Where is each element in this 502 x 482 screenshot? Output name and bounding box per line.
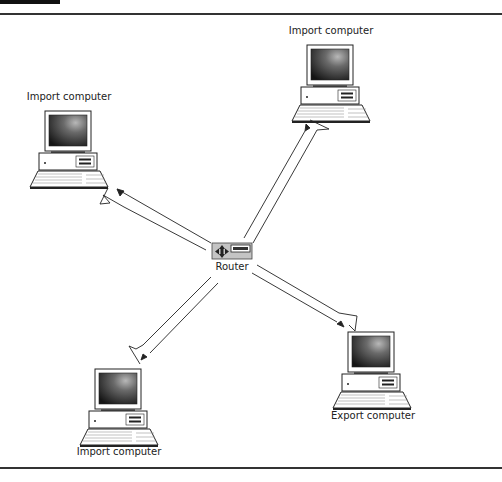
router-icon xyxy=(212,243,252,259)
link-router-to-import-top-right xyxy=(244,120,329,243)
label-router: Router xyxy=(215,261,248,272)
label-import-top-right: Import computer xyxy=(289,25,374,36)
network-diagram xyxy=(0,0,502,482)
computer-import-bottom-left xyxy=(80,369,158,446)
link-router-to-export-bottom-right xyxy=(252,265,357,331)
link-router-to-import-left xyxy=(100,188,211,250)
computer-import-left xyxy=(30,111,108,188)
label-import-left: Import computer xyxy=(27,91,112,102)
link-router-to-import-bottom-left xyxy=(129,277,218,364)
label-import-bottom-left: Import computer xyxy=(77,446,162,457)
label-export-bottom-right: Export computer xyxy=(331,410,415,421)
computer-import-top-right xyxy=(292,45,370,122)
computer-export-bottom-right xyxy=(333,332,411,409)
